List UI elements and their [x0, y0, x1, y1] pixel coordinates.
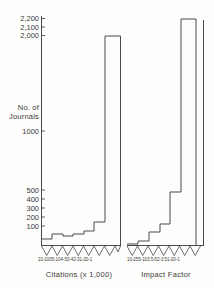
ytick-label-300: 300	[6, 204, 39, 213]
y-axis-title-line2: Journals	[0, 113, 39, 122]
ytick-label-400: 400	[6, 195, 39, 204]
chart-canvas	[0, 0, 214, 288]
left-axis-brace-ticks	[42, 246, 121, 256]
ytick-label-500: 500	[6, 186, 39, 195]
ytick-label-1000: 1000	[6, 127, 39, 136]
right-axis-brace-ticks	[127, 246, 201, 256]
left-xtick-labels: 10-1005-104-53-42-31-20-1	[38, 257, 92, 262]
left-axis-title: Citations (x 1,000)	[34, 270, 124, 279]
ytick-label-200: 200	[6, 213, 39, 222]
right-axis-title: Impact Factor	[124, 270, 208, 279]
y-tick-marks	[42, 19, 46, 227]
ytick-label-2000: 2,000	[6, 31, 39, 40]
ytick-label-100: 100	[6, 222, 39, 231]
right-histogram-steps	[127, 19, 196, 246]
figure-histogram-pair: 2,200 2,100 2,000 1000 500 400 300 200 1…	[0, 0, 214, 288]
left-histogram-steps	[42, 36, 121, 246]
right-xtick-labels: 10-255-103.5-52-3.51-20-1	[127, 257, 180, 262]
